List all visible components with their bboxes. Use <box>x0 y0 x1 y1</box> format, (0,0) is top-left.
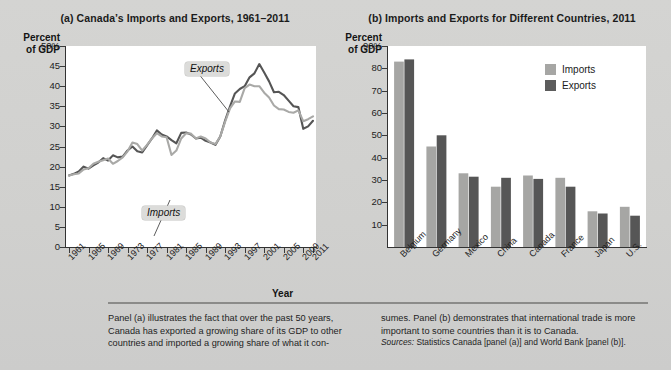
panel-b-title: (b) Imports and Exports for Different Co… <box>352 12 652 24</box>
bar-belgium-imports <box>394 62 404 247</box>
panel-a-y-tick-label: 5 <box>20 222 60 232</box>
bar-japan-imports <box>588 211 598 247</box>
panel-a-y-tick <box>60 86 65 87</box>
panel-b-bar-chart <box>388 46 646 247</box>
legend-label: Exports <box>562 80 596 91</box>
panel-a-y-tick-label: 15 <box>20 182 60 192</box>
panel-a-y-tick <box>60 247 65 248</box>
exports-callout: Exports <box>185 62 229 76</box>
bar-china-imports <box>491 187 501 247</box>
panel-a-line-chart <box>66 46 316 247</box>
panel-a-y-tick <box>60 126 65 127</box>
panel-b-plot-area <box>388 46 646 247</box>
panel-b-y-tick-label: 50 <box>342 130 382 140</box>
bar-us-imports <box>620 207 630 247</box>
panel-b-y-axis-line <box>387 46 388 248</box>
panel-b-y-tick <box>382 68 387 69</box>
bar-germany-exports <box>437 135 447 247</box>
panel-b-y-tick-label: 10 <box>342 220 382 230</box>
panel-b-y-tick <box>382 180 387 181</box>
panel-a-y-tick-label: 30 <box>20 121 60 131</box>
panel-b-y-tick-label: 40 <box>342 153 382 163</box>
panel-b-y-tick <box>382 225 387 226</box>
panel-a-y-tick-label: 40 <box>20 81 60 91</box>
panel-a-y-tick <box>60 46 65 47</box>
panel-a-y-tick-label: 10 <box>20 202 60 212</box>
caption-left-column: Panel (a) illustrates the fact that over… <box>108 312 360 350</box>
series-imports <box>69 85 313 176</box>
panel-a-y-tick <box>60 187 65 188</box>
sources-text: Statistics Canada [panel (a)] and World … <box>414 337 626 347</box>
legend-item-exports: Exports <box>545 80 596 91</box>
bar-france-imports <box>555 178 565 247</box>
panel-a-x-axis-label: Year <box>272 288 293 299</box>
legend-item-imports: Imports <box>545 64 596 75</box>
panel-a-y-tick <box>60 167 65 168</box>
panel-a-y-tick <box>60 227 65 228</box>
caption-right-text: sumes. Panel (b) demonstrates that inter… <box>381 312 649 337</box>
bar-germany-imports <box>426 147 436 248</box>
panel-a-y-tick <box>60 106 65 107</box>
panel-b-y-tick <box>382 158 387 159</box>
panel-a-y-tick-label: 50% <box>20 41 60 51</box>
panel-a-y-tick <box>60 207 65 208</box>
panel-b-y-tick-label: 90% <box>342 41 382 51</box>
legend-swatch-imports <box>545 64 556 75</box>
panel-a-y-tick <box>60 147 65 148</box>
panel-a-plot-area <box>66 46 316 247</box>
legend-label: Imports <box>562 64 595 75</box>
panel-b-y-tick <box>382 46 387 47</box>
panel-b-y-tick-label: 60 <box>342 108 382 118</box>
panel-a-y-tick-label: 45 <box>20 61 60 71</box>
figure-container: (a) Canada’s Imports and Exports, 1961–2… <box>0 0 671 370</box>
panel-b-y-tick <box>382 91 387 92</box>
legend-swatch-exports <box>545 80 556 91</box>
sources-label: Sources: <box>381 337 414 347</box>
imports-callout: Imports <box>142 206 185 220</box>
panel-b-y-tick-label: 80 <box>342 63 382 73</box>
panel-b-y-tick-label: 30 <box>342 175 382 185</box>
sources-line: Sources: Statistics Canada [panel (a)] a… <box>381 337 649 349</box>
panel-a-title: (a) Canada’s Imports and Exports, 1961–2… <box>30 12 320 24</box>
panel-b-y-tick <box>382 113 387 114</box>
panel-b-y-tick-label: 20 <box>342 197 382 207</box>
panel-a-y-tick <box>60 66 65 67</box>
caption-right-column: sumes. Panel (b) demonstrates that inter… <box>381 312 649 349</box>
panel-b-y-tick <box>382 135 387 136</box>
panel-a-y-tick-label: 35 <box>20 101 60 111</box>
bar-belgium-exports <box>404 59 414 247</box>
panel-a-y-tick-label: 20 <box>20 162 60 172</box>
exports-leader-line <box>198 73 229 112</box>
panel-a-y-tick-label: 0 <box>20 242 60 252</box>
panel-a-y-tick-label: 25 <box>20 142 60 152</box>
panel-b-y-tick-label: 70 <box>342 86 382 96</box>
panel-b-y-tick <box>382 202 387 203</box>
panel-a-y-axis-line <box>65 46 66 248</box>
caption-divider <box>108 302 648 304</box>
panel-b-legend: ImportsExports <box>545 64 596 96</box>
bar-canada-imports <box>523 176 533 248</box>
